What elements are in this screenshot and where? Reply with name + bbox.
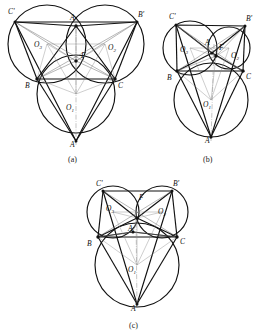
node-bprime-a xyxy=(136,21,139,24)
label-c-c: C xyxy=(180,237,186,246)
line-o1-b-c xyxy=(98,237,137,265)
node-cprime-c xyxy=(102,190,105,193)
caption-a: (a) xyxy=(68,155,77,164)
label-aprime-c: A' xyxy=(130,304,138,313)
seg-c-aprime-b xyxy=(211,71,243,137)
node-cprime-a xyxy=(14,21,17,24)
label-o1-a: O1 xyxy=(66,103,74,113)
label-o2-b: O2 xyxy=(231,51,239,61)
label-b-b: B xyxy=(167,73,172,82)
label-o2-a: O2 xyxy=(108,43,116,53)
node-c-a xyxy=(113,77,116,80)
label-bprime-a: B' xyxy=(138,10,145,19)
node-b-b xyxy=(175,69,178,72)
label-c-a: C xyxy=(118,81,124,90)
label-a-c: A xyxy=(127,224,133,233)
seg-cprime-b-c xyxy=(98,191,103,237)
line-f-b-a xyxy=(37,61,76,79)
node-a-a xyxy=(74,24,77,27)
panel-a: C' A B' B C F A' O3 O2 O1 (a) xyxy=(8,5,145,164)
label-bprime-b: B' xyxy=(246,14,253,23)
line-o1-b-b xyxy=(177,71,211,100)
geometry-figure: C' A B' B C F A' O3 O2 O1 (a) xyxy=(0,0,267,336)
label-c-b: C xyxy=(246,72,252,81)
panel-c: C' B' F A B C A' O3 O2 O1 (c) xyxy=(87,179,188,330)
node-bprime-c xyxy=(171,190,174,193)
node-c-c xyxy=(175,235,178,238)
line-o3-o1-b xyxy=(190,48,211,100)
label-o3-c: O3 xyxy=(106,204,114,214)
seg-c-aprime-c xyxy=(137,237,177,304)
caption-c: (c) xyxy=(129,321,138,330)
label-o1-c: O1 xyxy=(128,265,136,275)
label-aprime-a: A' xyxy=(69,140,77,149)
node-f-a xyxy=(74,59,77,62)
label-f-a: F xyxy=(80,51,86,60)
line-f-c-a xyxy=(76,61,115,79)
label-b-a: B xyxy=(25,81,30,90)
label-f-b: F xyxy=(218,43,224,52)
node-c-b xyxy=(241,69,244,72)
line-cprime-f-a xyxy=(15,22,76,61)
triangle-a-b-c-prime-b xyxy=(176,25,245,137)
label-f-c: F xyxy=(138,193,144,202)
node-cprime-b xyxy=(175,24,178,27)
label-b-c: B xyxy=(87,239,92,248)
label-o3-a: O3 xyxy=(34,40,42,50)
label-cprime-b: C' xyxy=(169,12,176,21)
label-cprime-a: C' xyxy=(8,7,15,16)
panel-b: C' B' A F B C A' O3 O2 O1 (b) xyxy=(163,12,253,164)
label-o1-b: O1 xyxy=(203,100,211,110)
label-bprime-c: B' xyxy=(173,179,180,188)
seg-bprime-c-c xyxy=(172,191,177,237)
figure-svg: C' A B' B C F A' O3 O2 O1 (a) xyxy=(0,0,267,336)
seg-cprime-b-b xyxy=(176,25,177,71)
node-b-c xyxy=(96,235,99,238)
label-a-a: A xyxy=(69,13,75,22)
seg-a-bprime-a xyxy=(76,22,137,26)
label-a-b: A xyxy=(204,38,210,47)
seg-cprime-a-a xyxy=(15,22,76,26)
node-f-c xyxy=(135,216,139,220)
seg-c-aprime-a xyxy=(76,79,115,141)
node-bprime-b xyxy=(244,25,247,28)
node-b-a xyxy=(35,77,38,80)
node-a-b xyxy=(210,51,213,54)
node-f-b xyxy=(214,54,217,57)
label-cprime-c: C' xyxy=(96,179,103,188)
label-o3-b: O3 xyxy=(180,45,188,55)
label-aprime-b: A' xyxy=(204,136,212,145)
label-o2-c: O2 xyxy=(158,207,166,217)
caption-b: (b) xyxy=(203,155,213,164)
